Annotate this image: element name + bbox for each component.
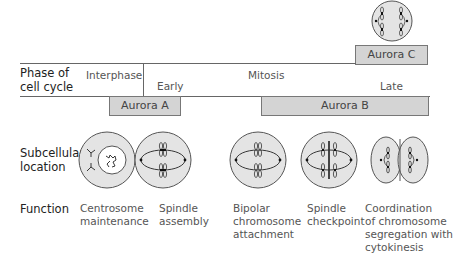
function-centrosome-maintenance: Centrosome maintenance	[80, 202, 149, 228]
late-label: Late	[380, 80, 403, 93]
subcellular-row-label: Subcellular location	[20, 146, 84, 174]
bipolar-attachment-cell-icon	[228, 131, 288, 191]
aurora-a-label: Aurora A	[121, 99, 169, 112]
phase-row-label: Phase of cell cycle	[20, 66, 73, 94]
function-bipolar-attachment: Bipolar chromosome attachment	[233, 202, 301, 241]
aurora-c-cell-icon	[368, 0, 418, 44]
function-spindle-assembly: Spindle assembly	[159, 202, 209, 228]
cytokinesis-cell-icon	[370, 135, 430, 187]
phase-top-line	[20, 63, 356, 64]
spindle-assembly-cell-icon	[133, 131, 193, 191]
centrosome-cell-icon	[77, 131, 137, 191]
spindle-checkpoint-cell-icon	[299, 131, 359, 191]
aurora-c-bar: Aurora C	[355, 45, 428, 65]
interphase-divider	[143, 63, 144, 96]
aurora-c-label: Aurora C	[368, 48, 416, 61]
function-spindle-checkpoint: Spindle checkpoint	[307, 202, 365, 228]
function-row-label: Function	[20, 202, 69, 216]
aurora-b-label: Aurora B	[321, 99, 369, 112]
early-label: Early	[157, 80, 184, 93]
interphase-label: Interphase	[86, 69, 142, 82]
function-coordination-cytokinesis: Coordination of chromosome segregation w…	[365, 202, 453, 253]
mitosis-label: Mitosis	[248, 69, 284, 82]
aurora-a-bar: Aurora A	[109, 96, 181, 116]
aurora-b-bar: Aurora B	[261, 96, 429, 116]
